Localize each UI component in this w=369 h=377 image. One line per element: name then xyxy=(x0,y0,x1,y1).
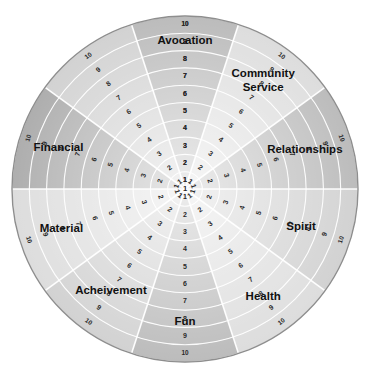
sector-label-avocation[interactable]: Avocation xyxy=(157,34,212,46)
wheel-of-life-diagram: 1234567891012345678910123456789101234567… xyxy=(0,0,369,377)
sector-label-line-community-service-1: Service xyxy=(243,81,284,93)
tick-number-5-7: 7 xyxy=(183,297,187,304)
tick-number-5-2: 2 xyxy=(183,211,187,218)
tick-number-10-10: 10 xyxy=(181,20,189,27)
sector-label-material[interactable]: Material xyxy=(40,222,83,234)
wheel-svg-canvas: 1234567891012345678910123456789101234567… xyxy=(0,0,369,377)
sector-label-line-financial-0: Financial xyxy=(34,141,84,153)
tick-number-10-1: 1 xyxy=(183,176,187,183)
tick-number-5-6: 6 xyxy=(183,280,187,287)
sector-label-line-community-service-0: Community xyxy=(232,67,296,79)
sector-label-acheivement[interactable]: Acheivement xyxy=(75,284,147,296)
sector-label-fun[interactable]: Fun xyxy=(174,315,195,327)
sector-label-spirit[interactable]: Spirit xyxy=(286,220,316,232)
tick-number-5-3: 3 xyxy=(183,228,187,235)
tick-number-10-4: 4 xyxy=(183,124,187,131)
tick-number-10-8: 8 xyxy=(183,55,187,62)
sector-label-health[interactable]: Health xyxy=(246,290,281,302)
sector-label-line-health-0: Health xyxy=(246,290,281,302)
sector-label-line-acheivement-0: Acheivement xyxy=(75,284,147,296)
tick-number-5-1: 1 xyxy=(183,193,187,200)
sector-label-financial[interactable]: Financial xyxy=(34,141,84,153)
sector-label-line-avocation-0: Avocation xyxy=(157,34,212,46)
tick-number-5-9: 9 xyxy=(183,332,187,339)
tick-number-10-7: 7 xyxy=(183,72,187,79)
tick-number-5-5: 5 xyxy=(183,263,187,270)
tick-number-10-3: 3 xyxy=(183,142,187,149)
sector-label-line-spirit-0: Spirit xyxy=(286,220,316,232)
sector-label-line-fun-0: Fun xyxy=(174,315,195,327)
sector-label-line-material-0: Material xyxy=(40,222,83,234)
tick-number-5-4: 4 xyxy=(183,245,187,252)
tick-number-10-5: 5 xyxy=(183,107,187,114)
tick-number-10-6: 6 xyxy=(183,90,187,97)
tick-number-5-10: 10 xyxy=(181,349,189,356)
sector-label-relationships[interactable]: Relationships xyxy=(267,143,342,155)
sector-label-line-relationships-0: Relationships xyxy=(267,143,342,155)
tick-number-10-2: 2 xyxy=(183,159,187,166)
